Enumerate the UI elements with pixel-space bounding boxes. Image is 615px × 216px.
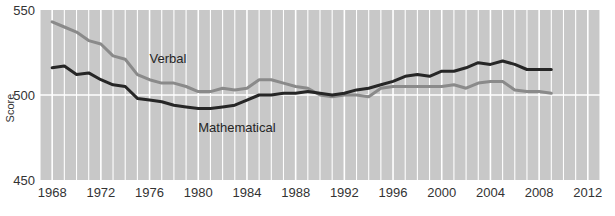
x-tick-1996: 1996: [379, 185, 408, 200]
x-tick-1976: 1976: [135, 185, 164, 200]
x-tick-2004: 2004: [476, 185, 505, 200]
chart-canvas: 450500550 196819721976198019841988199219…: [0, 0, 615, 216]
y-tick-450: 450: [13, 173, 35, 188]
y-axis-tick-labels: 450500550: [13, 3, 35, 188]
series-label-mathematical: Mathematical: [198, 120, 275, 135]
x-tick-2000: 2000: [427, 185, 456, 200]
y-tick-500: 500: [13, 88, 35, 103]
y-axis-title: Score: [4, 94, 16, 123]
y-tick-550: 550: [13, 3, 35, 18]
series-label-verbal: Verbal: [150, 51, 187, 66]
x-axis-tick-labels: 1968197219761980198419881992199620002004…: [38, 185, 603, 200]
x-tick-1984: 1984: [232, 185, 261, 200]
x-tick-1988: 1988: [281, 185, 310, 200]
x-tick-1980: 1980: [184, 185, 213, 200]
x-tick-2008: 2008: [525, 185, 554, 200]
sat-score-line-chart: 450500550 196819721976198019841988199219…: [0, 0, 615, 216]
x-tick-1992: 1992: [330, 185, 359, 200]
x-tick-1968: 1968: [38, 185, 67, 200]
x-tick-1972: 1972: [86, 185, 115, 200]
x-tick-2012: 2012: [573, 185, 602, 200]
